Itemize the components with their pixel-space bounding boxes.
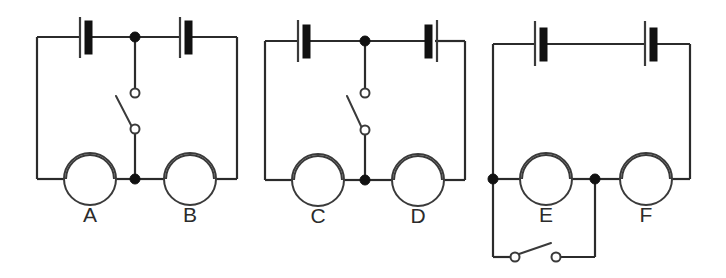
lamp-a-label: A	[83, 203, 97, 226]
switch-contact-bottom[interactable]	[131, 125, 140, 134]
lamp-c-label: C	[310, 204, 325, 227]
junction-dot-bottom	[360, 175, 370, 185]
junction-dot-left	[488, 174, 498, 184]
lamp-e-label: E	[539, 203, 553, 226]
switch-contact-bottom[interactable]	[361, 126, 370, 135]
switch-contact-left[interactable]	[511, 253, 520, 262]
battery-short-plate	[303, 25, 310, 58]
switch-contact-right[interactable]	[552, 253, 561, 262]
lamp-d-label: D	[410, 204, 425, 227]
junction-dot-top	[130, 32, 140, 42]
junction-dot-center	[590, 174, 600, 184]
battery-short-plate	[650, 28, 657, 61]
switch-contact-top[interactable]	[131, 89, 140, 98]
battery-short-plate	[185, 21, 192, 54]
junction-dot-top	[360, 36, 370, 46]
switch-contact-top[interactable]	[361, 89, 370, 98]
junction-dot-bottom	[130, 174, 140, 184]
lamp-f-label: F	[640, 203, 653, 226]
diagram-canvas: A B	[0, 0, 726, 278]
battery-short-plate	[540, 28, 547, 61]
circuit-diagram-figure: A B	[0, 0, 726, 278]
lamp-b-label: B	[183, 203, 197, 226]
battery-short-plate	[425, 25, 432, 58]
battery-short-plate	[85, 21, 92, 54]
